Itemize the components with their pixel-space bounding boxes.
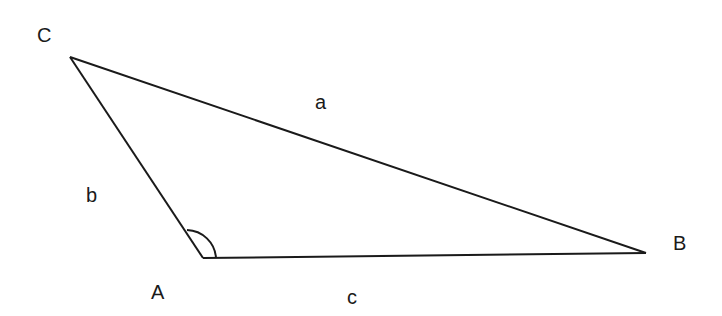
side-label-c: c xyxy=(347,286,357,308)
triangle-diagram: C A B a b c xyxy=(0,0,722,316)
angle-a-arc xyxy=(187,230,216,258)
side-c xyxy=(203,253,646,258)
side-b xyxy=(70,57,203,258)
side-label-a: a xyxy=(315,91,327,113)
side-label-b: b xyxy=(86,184,97,206)
side-a xyxy=(70,57,646,253)
vertex-label-b: B xyxy=(673,232,686,254)
vertex-label-c: C xyxy=(37,24,51,46)
vertex-label-a: A xyxy=(151,281,165,303)
